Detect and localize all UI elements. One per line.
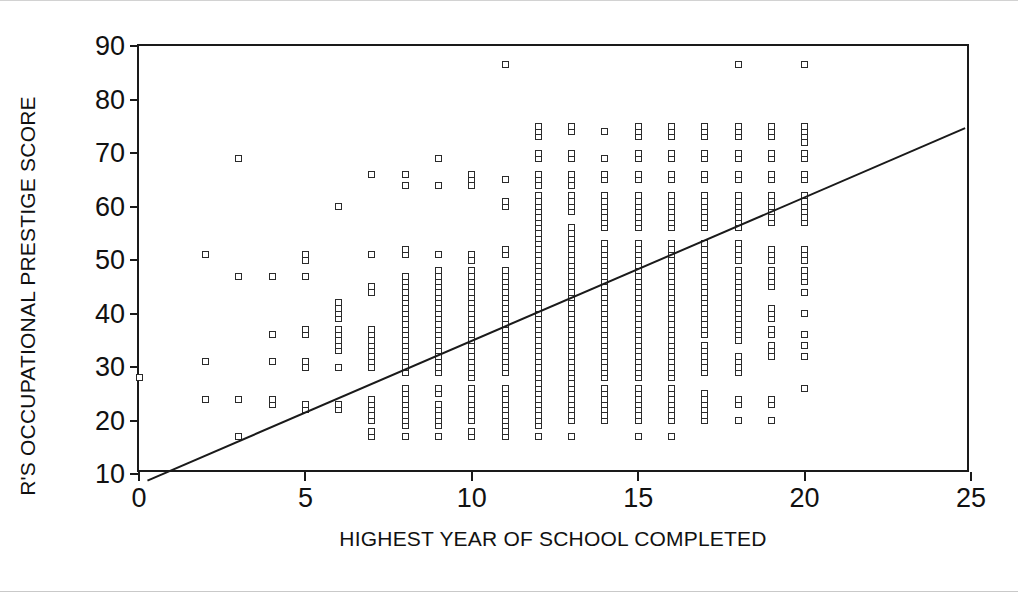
data-point bbox=[302, 326, 309, 333]
data-point bbox=[735, 417, 742, 424]
data-point bbox=[368, 171, 375, 178]
data-point bbox=[768, 246, 775, 253]
data-point bbox=[601, 192, 608, 199]
data-point bbox=[502, 246, 509, 253]
data-point bbox=[635, 192, 642, 199]
data-point bbox=[502, 61, 509, 68]
data-point bbox=[801, 123, 808, 130]
data-point bbox=[435, 267, 442, 274]
y-tick: 60 bbox=[130, 206, 139, 208]
y-tick: 70 bbox=[130, 152, 139, 154]
data-point bbox=[535, 433, 542, 440]
data-point bbox=[768, 396, 775, 403]
data-point bbox=[735, 61, 742, 68]
y-tick-label: 80 bbox=[95, 84, 125, 115]
data-point bbox=[368, 396, 375, 403]
data-point bbox=[202, 396, 209, 403]
data-point bbox=[435, 433, 442, 440]
data-point bbox=[801, 150, 808, 157]
data-point bbox=[801, 342, 808, 349]
data-point bbox=[701, 171, 708, 178]
y-tick: 30 bbox=[130, 366, 139, 368]
x-tick-label: 25 bbox=[956, 483, 986, 514]
x-tick: 15 bbox=[637, 472, 639, 481]
data-point bbox=[502, 267, 509, 274]
data-point bbox=[601, 128, 608, 135]
data-point bbox=[668, 192, 675, 199]
data-point bbox=[701, 150, 708, 157]
data-point bbox=[568, 224, 575, 231]
y-tick-label: 20 bbox=[95, 405, 125, 436]
data-point bbox=[302, 273, 309, 280]
data-point bbox=[468, 428, 475, 435]
data-point bbox=[668, 150, 675, 157]
data-point bbox=[735, 123, 742, 130]
data-point bbox=[202, 358, 209, 365]
data-point bbox=[735, 353, 742, 360]
data-point bbox=[735, 396, 742, 403]
data-point bbox=[468, 385, 475, 392]
data-point bbox=[701, 240, 708, 247]
data-point bbox=[335, 203, 342, 210]
data-point bbox=[801, 353, 808, 360]
data-point bbox=[269, 396, 276, 403]
x-tick: 5 bbox=[304, 472, 306, 481]
data-point bbox=[235, 396, 242, 403]
data-point bbox=[801, 289, 808, 296]
x-axis-title: HIGHEST YEAR OF SCHOOL COMPLETED bbox=[137, 527, 969, 551]
data-point bbox=[801, 267, 808, 274]
data-point bbox=[801, 246, 808, 253]
y-tick-label: 60 bbox=[95, 191, 125, 222]
data-point bbox=[269, 358, 276, 365]
data-point bbox=[568, 192, 575, 199]
data-point bbox=[502, 176, 509, 183]
data-point bbox=[468, 171, 475, 178]
data-point bbox=[468, 251, 475, 258]
data-point bbox=[668, 240, 675, 247]
data-point bbox=[635, 240, 642, 247]
data-point bbox=[535, 150, 542, 157]
data-point bbox=[668, 123, 675, 130]
data-point bbox=[601, 171, 608, 178]
data-point bbox=[435, 385, 442, 392]
data-point bbox=[735, 171, 742, 178]
x-tick-label: 0 bbox=[131, 483, 146, 514]
data-point bbox=[768, 326, 775, 333]
data-point bbox=[435, 182, 442, 189]
data-point bbox=[668, 433, 675, 440]
data-point bbox=[435, 155, 442, 162]
data-point bbox=[335, 326, 342, 333]
data-point bbox=[535, 192, 542, 199]
data-point bbox=[435, 401, 442, 408]
data-point bbox=[635, 150, 642, 157]
data-point bbox=[568, 171, 575, 178]
data-point bbox=[402, 246, 409, 253]
plot-area: 102030405060708090 0510152025 bbox=[137, 44, 969, 472]
data-point bbox=[402, 385, 409, 392]
data-point bbox=[136, 374, 143, 381]
data-point bbox=[635, 433, 642, 440]
data-point bbox=[402, 273, 409, 280]
data-point bbox=[701, 192, 708, 199]
data-point bbox=[701, 123, 708, 130]
data-point bbox=[368, 428, 375, 435]
y-tick: 80 bbox=[130, 99, 139, 101]
data-point bbox=[335, 401, 342, 408]
data-point bbox=[302, 358, 309, 365]
data-point bbox=[568, 123, 575, 130]
data-point bbox=[302, 401, 309, 408]
data-point bbox=[601, 155, 608, 162]
data-point bbox=[601, 240, 608, 247]
y-tick: 40 bbox=[130, 313, 139, 315]
y-tick-label: 70 bbox=[95, 138, 125, 169]
data-point bbox=[701, 342, 708, 349]
data-point bbox=[601, 385, 608, 392]
data-point bbox=[668, 171, 675, 178]
data-point bbox=[801, 385, 808, 392]
data-point bbox=[768, 342, 775, 349]
x-tick: 20 bbox=[804, 472, 806, 481]
x-tick-label: 5 bbox=[298, 483, 313, 514]
y-tick-label: 10 bbox=[95, 459, 125, 490]
y-axis-title: R'S OCCUPATIONAL PRESTIGE SCORE bbox=[0, 0, 56, 592]
data-point bbox=[801, 331, 808, 338]
